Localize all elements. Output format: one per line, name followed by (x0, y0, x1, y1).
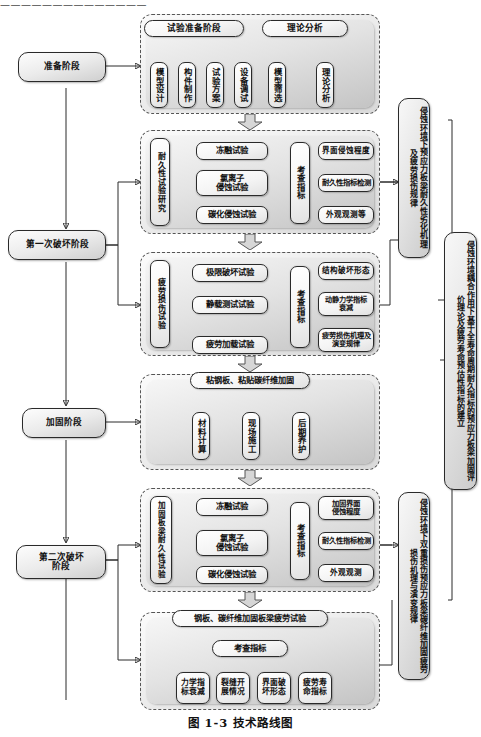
node-equipment-debug[interactable]: 设备调试 (234, 62, 252, 108)
node-durability-test-research-label: 耐久性试验研究 (156, 152, 164, 212)
node-fatigue-damage-mechanism[interactable]: 疲劳损伤机理及 演变规律 (318, 328, 374, 352)
conclusion-3-label: 侵蚀环境下双重损伤预应力板梁碳纤维加固疲劳损伤机理与演变规律 (407, 498, 427, 674)
page-top-cut-text: —————————————— (0, 0, 300, 10)
node-equipment-debug-label: 设备调试 (239, 68, 248, 102)
node-durability-assessment-index[interactable]: 考查指标 (290, 142, 310, 224)
flow-arrow-4 (237, 470, 263, 486)
node-appearance-observation-label: 外观观测等 (326, 211, 366, 219)
node-reinforce-interface-erosion[interactable]: 加固界面 侵蚀程度 (318, 496, 374, 520)
node-interface-erosion-degree[interactable]: 界面侵蚀程度 (318, 142, 374, 160)
node-static-load-test[interactable]: 静载测试试验 (192, 296, 268, 314)
node-carbonation-erosion-test-label: 碳化侵蚀试验 (208, 210, 256, 219)
node-ultimate-failure-test[interactable]: 极限破坏试验 (192, 264, 268, 282)
node-reinforced-fatigue-assessment-index-label: 考查指标 (234, 644, 266, 653)
node-later-maintenance-label: 后期养护 (297, 419, 306, 453)
node-material-calculation-label: 材料计算 (197, 419, 206, 453)
flow-arrow-1 (237, 114, 263, 130)
node-material-calculation[interactable]: 材料计算 (192, 412, 210, 460)
node-freeze-thaw-test-label: 冻融试验 (216, 146, 248, 155)
node-interface-failure-mode[interactable]: 界面破坏形态 (257, 672, 291, 704)
stage-prep[interactable]: 准备阶段 (18, 52, 106, 82)
node-fatigue-loading-test-label: 疲劳加载试验 (206, 340, 254, 349)
node-test-scheme[interactable]: 试验方案 (206, 62, 224, 108)
node-reinforced-beam-durability-test-label: 加固板梁耐久性试验 (157, 501, 165, 578)
node-reinforced-assessment-index[interactable]: 考查指标 (290, 502, 310, 580)
node-component-fabrication[interactable]: 构件制作 (178, 62, 196, 108)
node-structural-failure-mode[interactable]: 结构破坏形态 (318, 262, 374, 280)
node-fatigue-life-index[interactable]: 疲劳寿命指标 (298, 672, 332, 704)
node-carbonation-erosion-test-2[interactable]: 碳化侵蚀试验 (196, 566, 268, 584)
node-freeze-thaw-test[interactable]: 冻融试验 (196, 142, 268, 160)
node-appearance-observation-2-label: 外观观测 (330, 569, 362, 577)
node-crack-development[interactable]: 裂缝开展情况 (216, 672, 250, 704)
node-fatigue-damage-test-label: 疲劳损伤试验 (156, 278, 164, 330)
node-reinforced-fatigue-assessment-index[interactable]: 考查指标 (212, 640, 288, 657)
node-fatigue-damage-mechanism-label: 疲劳损伤机理及 演变规律 (322, 332, 371, 348)
node-durability-index-detection-2-label: 耐久性指标检测 (322, 537, 371, 545)
conclusion-1[interactable]: 侵蚀环境下预应力板梁耐久性劣化机理及疲劳损伤规律 (398, 98, 430, 258)
node-carbonation-erosion-test[interactable]: 碳化侵蚀试验 (196, 206, 268, 224)
flow-arrow-5 (237, 592, 263, 608)
node-fatigue-life-index-label: 疲劳寿命指标 (300, 679, 330, 697)
node-theoretical-analysis[interactable]: 理论分析 (316, 62, 334, 108)
node-reinforced-beam-durability-test[interactable]: 加固板梁耐久性试验 (150, 496, 172, 584)
group-header-theory-analysis-label: 理论分析 (287, 24, 323, 33)
group-header-reinforce-label: 粘钢板、粘贴碳纤维加固 (206, 376, 294, 385)
node-appearance-observation-2[interactable]: 外观观测 (318, 564, 374, 582)
node-static-load-test-label: 静载测试试验 (206, 300, 254, 309)
node-durability-test-research[interactable]: 耐久性试验研究 (150, 138, 170, 226)
node-fatigue-assessment-index[interactable]: 考查指标 (290, 266, 310, 348)
node-model-screening-label: 模型筛选 (273, 68, 282, 102)
node-dynamic-static-index-decay-label: 动静力学指标 衰减 (325, 296, 367, 312)
node-durability-assessment-index-label: 考查指标 (295, 166, 306, 199)
node-site-construction[interactable]: 现场施工 (242, 412, 260, 460)
group-header-reinforced-fatigue[interactable]: 钢板、碳纤维加固板梁疲劳试验 (172, 610, 328, 627)
node-theoretical-analysis-label: 理论分析 (321, 68, 330, 102)
flow-arrow-2 (237, 234, 263, 250)
node-fatigue-damage-test[interactable]: 疲劳损伤试验 (150, 260, 170, 348)
stage-strengthen-label: 加固阶段 (46, 418, 82, 427)
figure-caption: 图 1-3 技术路线图 (0, 714, 481, 730)
node-model-design[interactable]: 模型设计 (150, 62, 168, 108)
node-durability-index-detection-2[interactable]: 耐久性指标检测 (318, 532, 374, 550)
node-crack-development-label: 裂缝开展情况 (218, 679, 248, 697)
node-reinforced-assessment-index-label: 考查指标 (295, 524, 306, 557)
node-test-scheme-label: 试验方案 (211, 68, 220, 102)
conclusion-3[interactable]: 侵蚀环境下双重损伤预应力板梁碳纤维加固疲劳损伤机理与演变规律 (398, 492, 430, 680)
node-carbonation-erosion-test-2-label: 碳化侵蚀试验 (208, 570, 256, 579)
node-reinforce-interface-erosion-label: 加固界面 侵蚀程度 (332, 500, 360, 516)
node-durability-index-detection[interactable]: 耐久性指标检测 (318, 174, 374, 192)
node-durability-index-detection-label: 耐久性指标检测 (322, 179, 371, 187)
node-model-screening[interactable]: 模型筛选 (268, 62, 286, 108)
node-dynamic-static-index-decay[interactable]: 动静力学指标 衰减 (318, 292, 374, 316)
node-chloride-erosion-test-label: 氯离子 侵蚀试验 (216, 174, 248, 192)
node-interface-erosion-degree-label: 界面侵蚀程度 (322, 147, 370, 155)
stage-damage1-label: 第一次破坏阶段 (26, 240, 89, 249)
conclusion-2-label: 侵蚀环境耦合作用下基于全寿命周期耐久指标的预应力板梁加固评价理论及疲劳寿命预估性… (454, 238, 474, 484)
node-component-fabrication-label: 构件制作 (183, 68, 192, 102)
conclusion-2[interactable]: 侵蚀环境耦合作用下基于全寿命周期耐久指标的预应力板梁加固评价理论及疲劳寿命预估性… (444, 232, 477, 490)
panel-reinforce-fill (146, 380, 374, 464)
node-chloride-erosion-test[interactable]: 氯离子 侵蚀试验 (196, 170, 268, 196)
stage-strengthen[interactable]: 加固阶段 (22, 408, 106, 438)
stage-prep-label: 准备阶段 (44, 62, 80, 71)
node-mechanical-index-decay[interactable]: 力学指标衰减 (176, 672, 210, 704)
node-chloride-erosion-test-2[interactable]: 氯离子 侵蚀试验 (196, 530, 268, 556)
node-structural-failure-mode-label: 结构破坏形态 (322, 267, 370, 275)
group-header-reinforce[interactable]: 粘钢板、粘贴碳纤维加固 (190, 372, 310, 389)
group-header-reinforced-fatigue-label: 钢板、碳纤维加固板梁疲劳试验 (194, 614, 306, 623)
node-later-maintenance[interactable]: 后期养护 (292, 412, 310, 460)
stage-damage2[interactable]: 第二次破坏 阶段 (16, 545, 106, 579)
group-header-test-preparation[interactable]: 试验准备阶段 (144, 20, 244, 37)
group-header-theory-analysis[interactable]: 理论分析 (262, 20, 348, 37)
node-chloride-erosion-test-2-label: 氯离子 侵蚀试验 (216, 534, 248, 552)
conclusion-1-label: 侵蚀环境下预应力板梁耐久性劣化机理及疲劳损伤规律 (407, 104, 427, 252)
node-model-design-label: 模型设计 (155, 68, 164, 102)
flow-arrow-3 (237, 356, 263, 372)
group-header-test-preparation-label: 试验准备阶段 (167, 24, 221, 33)
node-freeze-thaw-test-2[interactable]: 冻融试验 (196, 498, 268, 516)
node-appearance-observation[interactable]: 外观观测等 (318, 206, 374, 224)
node-fatigue-loading-test[interactable]: 疲劳加载试验 (192, 336, 268, 354)
node-fatigue-assessment-index-label: 考查指标 (295, 290, 306, 323)
stage-damage1[interactable]: 第一次破坏阶段 (8, 230, 106, 260)
